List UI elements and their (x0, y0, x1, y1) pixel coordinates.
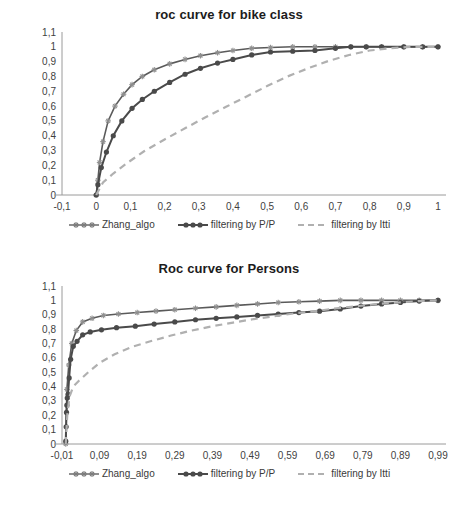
data-point-marker (249, 52, 254, 57)
x-axis-tick-label: 0,5 (260, 201, 274, 212)
x-axis-tick-label: 0,09 (90, 450, 110, 461)
x-axis-tick-label: 0,7 (329, 201, 343, 212)
x-axis-tick-label: 0,99 (428, 450, 448, 461)
series-line-filtering-by-p-p (96, 47, 438, 195)
legend-star (81, 222, 87, 228)
legend-label: filtering by Itti (331, 220, 390, 230)
data-point-marker (151, 67, 157, 73)
data-point-marker (99, 327, 104, 332)
data-point-marker (364, 44, 369, 49)
data-point-marker (119, 118, 124, 123)
x-axis-tick-label: 0,49 (240, 450, 260, 461)
data-point-marker (268, 49, 273, 54)
legend-dot (190, 222, 195, 227)
data-point-marker (312, 48, 317, 53)
legend-item-zhang-algo[interactable]: Zhang_algo (68, 219, 155, 231)
data-point-marker (80, 332, 85, 337)
series-line-zhang-algo (66, 300, 438, 444)
y-axis-tick-label: 0,4 (42, 130, 56, 141)
legend-star (73, 471, 79, 477)
x-axis-tick-label: 0,8 (363, 201, 377, 212)
data-point-marker (333, 46, 338, 51)
y-axis-tick-label: 0,9 (42, 56, 56, 67)
data-point-marker (74, 339, 79, 344)
y-axis-tick-label: 0,9 (42, 309, 56, 320)
data-point-marker (114, 325, 119, 330)
y-axis-tick-label: 0,1 (42, 424, 56, 435)
y-axis-tick-label: 0,6 (42, 101, 56, 112)
data-point-marker (140, 97, 145, 102)
chart-title-bike: roc curve for bike class (0, 0, 458, 22)
data-point-marker (255, 301, 261, 307)
x-axis-tick-label: 0,9 (397, 201, 411, 212)
data-point-marker (230, 48, 236, 54)
series-line-zhang-algo (96, 47, 438, 195)
legend-item-zhang-algo[interactable]: Zhang_algo (68, 468, 155, 480)
plot-area-bike: 1,110,90,80,70,60,50,40,30,20,10-0,100,1… (0, 22, 458, 217)
legend-dot (197, 222, 202, 227)
x-axis-tick-label: 0,29 (165, 450, 185, 461)
data-point-marker (230, 57, 235, 62)
data-point-marker (101, 313, 107, 319)
legend-bike: Zhang_algofiltering by P/Pfiltering by I… (0, 219, 458, 231)
legend-key-dashed-line (297, 468, 329, 480)
data-point-marker (105, 118, 111, 124)
y-axis-tick-label: 0,8 (42, 324, 56, 335)
data-point-marker (71, 344, 76, 349)
legend-label: filtering by Itti (331, 469, 390, 479)
data-point-marker (214, 316, 219, 321)
data-point-marker (172, 307, 178, 313)
legend-item-filtering-by-p-p[interactable]: filtering by P/P (177, 219, 275, 231)
data-point-marker (67, 375, 72, 380)
legend-star (81, 471, 87, 477)
y-axis-tick-label: 0,2 (42, 410, 56, 421)
x-axis-tick-label: 0 (93, 201, 99, 212)
data-point-marker (255, 313, 260, 318)
legend-key-line-with-star-markers (68, 468, 100, 480)
legend-item-filtering-by-p-p[interactable]: filtering by P/P (177, 468, 275, 480)
legend-star (89, 471, 95, 477)
x-axis-tick-label: -0,1 (53, 201, 71, 212)
legend-dot (190, 471, 195, 476)
y-axis-tick-label: 0,2 (42, 160, 56, 171)
data-point-marker (337, 298, 343, 304)
y-axis-tick-label: 0,1 (42, 175, 56, 186)
data-point-marker (116, 311, 122, 317)
legend-item-filtering-by-itti[interactable]: filtering by Itti (297, 219, 390, 231)
data-point-marker (213, 304, 219, 310)
y-axis-tick-label: 1,1 (42, 281, 56, 292)
data-point-marker (234, 303, 240, 309)
data-point-marker (133, 324, 138, 329)
roc-plot-svg-bike: 1,110,90,80,70,60,50,40,30,20,10-0,100,1… (0, 22, 458, 217)
legend-label: filtering by P/P (211, 220, 275, 230)
y-axis-tick-label: 0,8 (42, 71, 56, 82)
data-point-marker (153, 308, 159, 314)
data-point-marker (68, 357, 73, 362)
y-axis-tick-label: 0,4 (42, 381, 56, 392)
data-point-marker (100, 139, 106, 145)
x-axis-tick-label: 0,6 (294, 201, 308, 212)
legend-item-filtering-by-itti[interactable]: filtering by Itti (297, 468, 390, 480)
data-point-marker (172, 319, 177, 324)
y-axis-tick-label: 0,7 (42, 86, 56, 97)
legend-dot (183, 471, 188, 476)
data-point-marker (129, 106, 134, 111)
chart-title-persons: Roc curve for Persons (0, 256, 458, 276)
legend-key-line-with-dot-markers (177, 219, 209, 231)
legend-persons: Zhang_algofiltering by P/Pfiltering by I… (0, 468, 458, 480)
data-point-marker (99, 165, 104, 170)
data-point-marker (317, 309, 322, 314)
data-point-marker (296, 299, 302, 305)
x-axis-tick-label: 0,39 (203, 450, 223, 461)
legend-star (89, 222, 95, 228)
data-point-marker (182, 72, 187, 77)
data-point-marker (152, 321, 157, 326)
legend-label: Zhang_algo (102, 469, 155, 479)
data-point-marker (198, 66, 203, 71)
legend-label: Zhang_algo (102, 220, 155, 230)
plot-area-persons: 1,110,90,80,70,60,50,40,30,20,10-0,010,0… (0, 276, 458, 466)
series-line-filtering-by-itti (66, 300, 438, 444)
y-axis-tick-label: 1 (50, 41, 56, 52)
y-axis-tick-label: 0,5 (42, 115, 56, 126)
data-point-marker (88, 329, 93, 334)
